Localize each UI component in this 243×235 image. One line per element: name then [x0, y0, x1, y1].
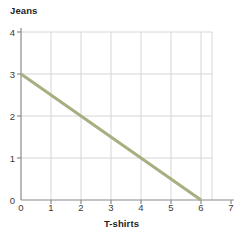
x-tick-label-4: 4 [131, 202, 151, 213]
plot-area [0, 0, 243, 235]
budget-constraint-chart: Jeans [0, 0, 243, 235]
x-tick-label-5: 5 [161, 202, 181, 213]
y-tick-label-2: 2 [1, 111, 15, 122]
y-tick-label-1: 1 [1, 153, 15, 164]
x-tick-label-2: 2 [71, 202, 91, 213]
x-tick-label-6: 6 [191, 202, 211, 213]
x-tick-label-3: 3 [101, 202, 121, 213]
x-axis-title: T-shirts [0, 218, 243, 229]
y-tick-label-3: 3 [1, 69, 15, 80]
x-tick-label-1: 1 [41, 202, 61, 213]
x-tick-label-0: 0 [11, 202, 31, 213]
y-tick-label-4: 4 [1, 27, 15, 38]
x-tick-label-7: 7 [221, 202, 241, 213]
